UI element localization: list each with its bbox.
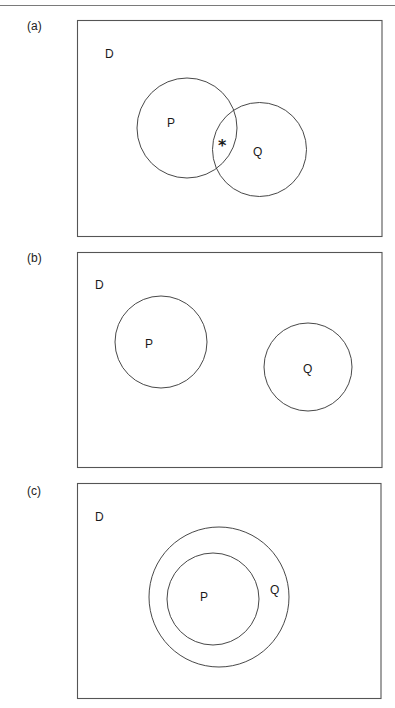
universe-label-b: D xyxy=(95,278,104,292)
set-p-label-c: P xyxy=(200,590,208,604)
set-p-label-b: P xyxy=(145,337,153,351)
set-q-label-b: Q xyxy=(303,362,312,376)
set-p-label-a: P xyxy=(167,116,175,130)
panel-c: D P Q xyxy=(78,484,382,699)
set-p-circle-a xyxy=(137,78,237,178)
panel-b: D P Q xyxy=(78,253,383,468)
universe-label-a: D xyxy=(105,47,114,61)
panel-a: D P Q * xyxy=(78,21,383,237)
set-p-circle-c xyxy=(167,553,259,645)
intersection-marker: * xyxy=(218,136,227,155)
venn-diagrams: D P Q * D P Q D P Q xyxy=(0,0,395,708)
universe-box-b xyxy=(78,253,383,468)
universe-box-a xyxy=(78,21,383,237)
set-q-circle-c xyxy=(149,527,289,667)
universe-label-c: D xyxy=(95,510,104,524)
set-q-label-a: Q xyxy=(253,145,262,159)
set-p-circle-b xyxy=(115,296,207,388)
set-q-label-c: Q xyxy=(270,583,279,597)
